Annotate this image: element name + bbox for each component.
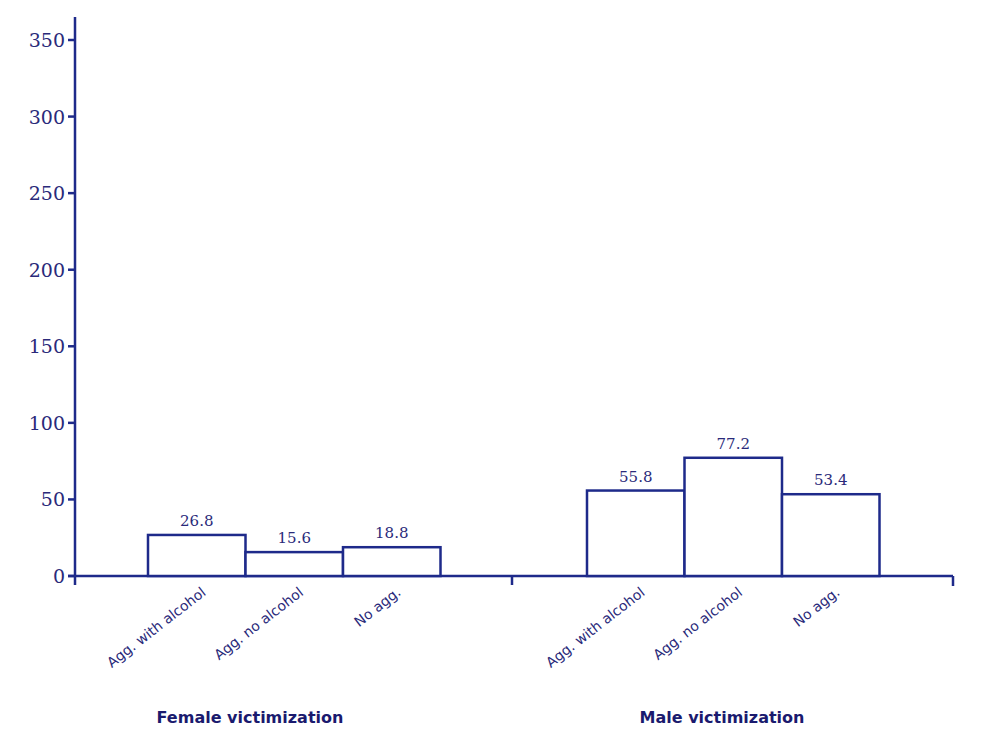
bar — [343, 547, 441, 576]
bar-value-label: 77.2 — [717, 435, 750, 453]
bar — [685, 458, 783, 576]
x-axis — [68, 576, 953, 586]
bar-value-label: 53.4 — [814, 471, 847, 489]
bar — [782, 494, 880, 576]
bar-value-label: 18.8 — [375, 524, 408, 542]
y-tick-label: 250 — [29, 182, 65, 204]
bar — [246, 552, 344, 576]
y-tick-label: 300 — [29, 106, 65, 128]
bar-value-label: 26.8 — [180, 512, 213, 530]
category-label: Agg. with alcohol — [104, 584, 209, 671]
category-label: No agg. — [351, 584, 404, 630]
category-label: No agg. — [790, 584, 843, 630]
bars — [148, 458, 880, 576]
bar-value-label: 55.8 — [619, 468, 652, 486]
y-tick-label: 50 — [41, 488, 65, 510]
bar-chart: 050100150200250300350 26.8Agg. with alco… — [0, 0, 982, 729]
category-label: Agg. no alcohol — [211, 584, 306, 663]
bar — [587, 491, 685, 576]
y-tick-label: 200 — [29, 259, 65, 281]
y-axis: 050100150200250300350 — [29, 17, 75, 587]
category-label: Agg. with alcohol — [543, 584, 648, 671]
bar — [148, 535, 246, 576]
y-tick-label: 100 — [29, 412, 65, 434]
group-label: Male victimization — [640, 708, 805, 727]
category-label: Agg. no alcohol — [650, 584, 745, 663]
y-tick-label: 350 — [29, 29, 65, 51]
y-tick-label: 0 — [53, 565, 65, 587]
bar-value-label: 15.6 — [278, 529, 311, 547]
group-label: Female victimization — [157, 708, 344, 727]
y-tick-label: 150 — [29, 335, 65, 357]
